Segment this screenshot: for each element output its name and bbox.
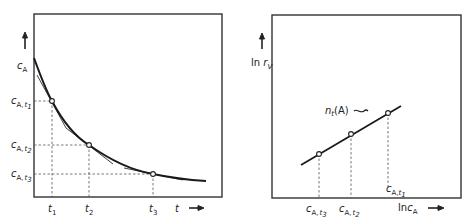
x-axis-label: t xyxy=(175,203,180,214)
y-tick-ca-t1: cA,t1 xyxy=(11,95,32,111)
y-axis-label-ln-rv: ln rV xyxy=(251,57,273,71)
up-arrow-icon xyxy=(260,33,265,49)
right-arrow-icon xyxy=(189,206,204,211)
left-plot-frame xyxy=(34,14,222,197)
right-arrow-icon xyxy=(428,206,444,211)
line-label-reaction-order: nt(A) xyxy=(325,105,349,118)
x-tick-ca-t1: cA,t1 xyxy=(386,183,406,199)
right-plot-frame xyxy=(272,15,461,198)
data-point-ln-t3 xyxy=(317,152,322,157)
leader-tilde-icon xyxy=(354,110,368,112)
diagram-canvas: cA cA,t1 cA,t2 cA,t3 t1 t2 t3 t nt(A) xyxy=(0,0,474,224)
data-point-ln-t2 xyxy=(349,132,354,137)
y-tick-ca-t2: cA,t2 xyxy=(11,139,32,155)
y-tick-ca-t3: cA,t3 xyxy=(11,168,32,184)
decay-curve xyxy=(34,58,206,181)
x-tick-ca-t2: cA,t2 xyxy=(339,203,360,219)
data-point-t3 xyxy=(151,172,156,177)
data-point-t2 xyxy=(87,143,92,148)
x-tick-ca-t3: cA,t3 xyxy=(306,203,327,219)
x-tick-t3: t3 xyxy=(149,203,157,217)
x-tick-t2: t2 xyxy=(85,203,93,217)
left-diagram: cA cA,t1 cA,t2 cA,t3 t1 t2 t3 t xyxy=(11,14,222,217)
data-point-t1 xyxy=(50,99,55,104)
x-axis-label-ln-ca: lncA xyxy=(398,202,418,216)
right-diagram: nt(A) ln rV cA,t3 cA,t2 cA,t1 lncA xyxy=(251,15,461,219)
data-point-ln-t1 xyxy=(386,111,391,116)
x-tick-t1: t1 xyxy=(48,203,56,217)
y-axis-label: cA xyxy=(17,60,28,74)
up-arrow-icon xyxy=(23,32,28,49)
